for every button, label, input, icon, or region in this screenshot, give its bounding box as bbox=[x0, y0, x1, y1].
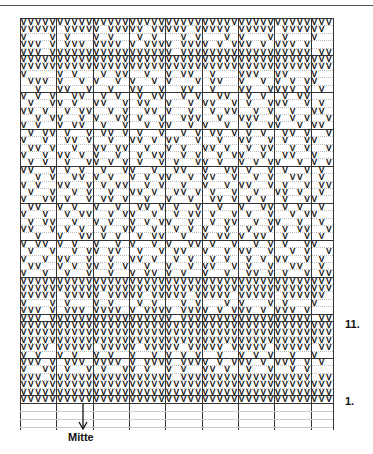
chart-row: VVVVVVVVVVVVVVVVVVVVVVVVVVVVVVVVVVVVVVVV… bbox=[20, 395, 333, 402]
chart-row: VVVVVVVVVVVVVVVVV bbox=[20, 70, 333, 77]
block-divider bbox=[56, 18, 57, 430]
row-label-1: 1. bbox=[345, 395, 354, 407]
chart-row: VVVVVVVVVVVVVVVVVVV bbox=[20, 210, 333, 217]
chart-row: VVVVVVVVVVVVVVVVVVVVVVVVVVVVVVVVVVVV bbox=[20, 343, 333, 350]
block-divider bbox=[202, 18, 203, 430]
chart-row: VVVVVVVVVVVVVVVVVVV bbox=[20, 166, 333, 173]
chart-row: VVVVVVVVVVVVVVVVVVVV bbox=[20, 107, 333, 114]
empty-grid-rows bbox=[20, 403, 333, 429]
knitting-chart: VVVVVVVVVVVVVVVVVVVVVVVVVVVVVVVVVVVVVVVV… bbox=[20, 18, 333, 402]
block-divider bbox=[93, 18, 94, 430]
row-label-11: 11. bbox=[345, 318, 360, 330]
down-arrow-icon bbox=[78, 404, 88, 430]
stitch-grid: VVVVVVVVVVVVVVVVVVVVVVVVVVVVVVVVVVVVVVVV… bbox=[20, 18, 333, 402]
block-divider bbox=[20, 18, 21, 430]
block-divider bbox=[165, 18, 166, 430]
block-divider bbox=[333, 18, 334, 430]
center-label: Mitte bbox=[68, 431, 94, 443]
top-rule bbox=[0, 5, 373, 6]
chart-row: VVVVVVVVVVVVVVVVVVV bbox=[20, 255, 333, 262]
chart-row: VVVVVVVVVVVVVVVVVVV bbox=[20, 136, 333, 143]
block-divider bbox=[238, 18, 239, 430]
chart-row: VVVVVVVVVVVVVVVVVVVV bbox=[20, 114, 333, 121]
block-divider bbox=[274, 18, 275, 430]
block-divider bbox=[311, 18, 312, 430]
block-divider bbox=[129, 18, 130, 430]
